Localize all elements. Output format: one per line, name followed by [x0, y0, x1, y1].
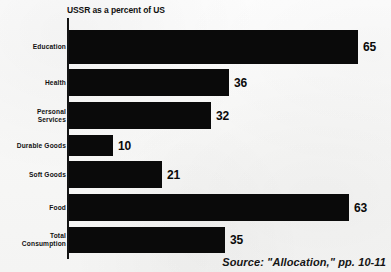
- source-note: Source: "Allocation," pp. 10-11: [222, 256, 386, 268]
- bar-value-label: 10: [118, 140, 131, 152]
- bar-rect: [69, 69, 229, 96]
- bar-category-label: Health: [45, 79, 66, 87]
- bar-rect: [69, 135, 113, 156]
- bar-value-label: 35: [230, 234, 243, 246]
- bar-value-label: 63: [354, 202, 367, 214]
- bar-rect: [69, 161, 162, 188]
- bar-category-label: Soft Goods: [29, 171, 66, 179]
- bar-rect: [69, 30, 358, 64]
- bar-category-label: Personal Services: [37, 108, 66, 124]
- bar-value-label: 65: [363, 41, 376, 53]
- bar-category-label: Food: [49, 204, 66, 212]
- bar-value-label: 21: [167, 169, 180, 181]
- bar-category-label: Education: [33, 43, 66, 51]
- bar-rect: [69, 102, 211, 129]
- plot-area: Education65Health36Personal Services32Du…: [0, 0, 391, 272]
- bar-value-label: 32: [216, 110, 229, 122]
- bar-rect: [69, 194, 349, 221]
- bar-category-label: Durable Goods: [17, 142, 66, 150]
- bar-category-label: Total Consumption: [22, 232, 66, 248]
- bar-value-label: 36: [234, 77, 247, 89]
- bar-rect: [69, 227, 225, 253]
- chart-page: USSR as a percent of US Education65Healt…: [0, 0, 391, 272]
